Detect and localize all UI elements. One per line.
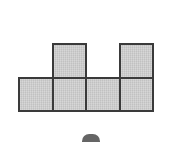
polyomino-square-top-square-col2 — [52, 43, 88, 79]
cropped-caption-mark — [82, 134, 100, 142]
figure-canvas — [0, 0, 173, 142]
polyomino-grid — [0, 0, 173, 142]
polyomino-square-bottom-square-col3 — [85, 77, 121, 113]
polyomino-square-top-square-col4 — [119, 43, 155, 79]
polyomino-square-bottom-square-col4 — [119, 77, 155, 113]
polyomino-square-bottom-square-col1 — [18, 77, 54, 113]
polyomino-square-bottom-square-col2 — [52, 77, 88, 113]
